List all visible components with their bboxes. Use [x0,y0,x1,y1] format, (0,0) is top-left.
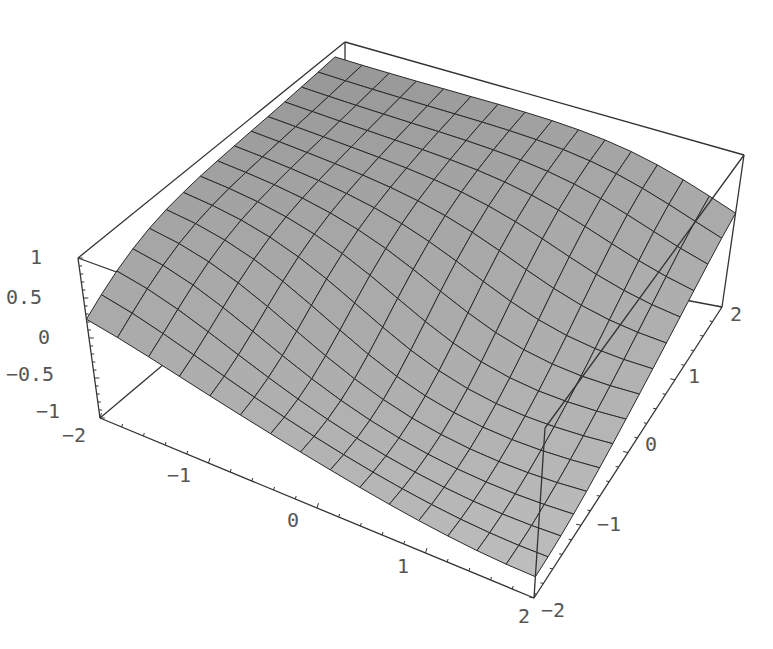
tick-mark [663,394,666,395]
tick-mark [491,577,492,580]
tick-mark [426,548,427,553]
tick-mark [606,481,609,482]
surface-plot: 10.50−0.5−1−2−1012−2−1012 [0,0,773,649]
tick-mark [252,478,253,481]
tick-mark [165,442,166,445]
tick-mark [597,496,600,497]
tick-mark [623,452,628,453]
x-tick-label: 2 [518,604,530,628]
tick-mark [576,524,581,525]
x-tick-label: 1 [397,554,409,578]
tick-mark [360,523,361,526]
y-tick-label: −1 [597,512,621,536]
tick-mark [209,458,210,463]
tick-mark [382,532,383,535]
tick-mark [122,424,123,427]
tick-mark [187,451,188,454]
x-tick-label: 0 [287,508,299,532]
tick-mark [559,554,562,555]
z-tick-label: 0 [38,325,50,349]
tick-mark [644,423,647,424]
tick-mark [404,541,405,544]
tick-mark [634,437,637,438]
tick-mark [143,433,144,436]
tick-mark [616,466,619,467]
z-tick-label: 0.5 [6,285,42,309]
x-tick-label: −2 [62,423,86,447]
x-tick-label: −1 [167,463,191,487]
tick-mark [230,469,231,472]
tick-mark [700,336,703,337]
tick-mark [691,350,694,351]
tick-mark [274,487,275,490]
tick-mark [681,365,684,366]
tick-mark [710,321,713,322]
y-tick-label: 1 [688,364,700,388]
y-tick-label: −2 [541,598,565,622]
y-tick-label: 2 [730,302,742,326]
z-tick-label: −1 [36,399,60,423]
z-tick-label: −0.5 [6,362,54,386]
tick-mark [512,586,513,589]
tick-mark [295,496,296,499]
tick-mark [469,568,470,571]
tick-mark [317,503,318,508]
surface [86,57,735,577]
z-tick-label: 1 [30,245,42,269]
tick-mark [540,583,543,584]
tick-mark [550,568,553,569]
tick-mark [587,510,590,511]
y-tick-label: 0 [645,432,657,456]
tick-mark [670,379,675,380]
tick-mark [339,514,340,517]
tick-mark [569,539,572,540]
tick-mark [447,559,448,562]
tick-mark [653,408,656,409]
